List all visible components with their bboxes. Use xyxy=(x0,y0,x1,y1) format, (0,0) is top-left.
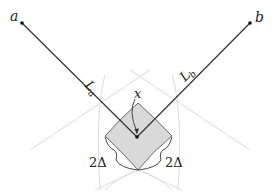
arc-right-inner xyxy=(172,75,180,190)
segment-La xyxy=(22,23,137,137)
point-a xyxy=(20,21,24,25)
label-Lb: L b xyxy=(176,64,199,87)
label-La: L a xyxy=(80,77,102,99)
arc-bottom-right xyxy=(137,170,172,190)
arc-left-inner xyxy=(98,75,105,190)
point-x xyxy=(135,135,139,139)
label-width-left: 2Δ xyxy=(89,155,107,170)
label-width-right: 2Δ xyxy=(165,155,183,170)
label-a: a xyxy=(10,8,18,24)
label-x: x xyxy=(134,86,142,101)
label-b: b xyxy=(255,9,264,25)
arc-bottom-cross-right xyxy=(138,170,182,190)
point-b xyxy=(248,21,252,25)
arc-bottom-cross-left xyxy=(95,170,138,190)
arc-bottom-left xyxy=(105,170,140,190)
diagram-canvas: a b x L a L b 2Δ 2Δ xyxy=(0,0,277,195)
